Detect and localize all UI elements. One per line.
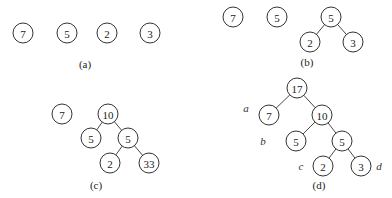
- huffman-tree-figure: 7523(a)75523(b)71055233(c)177105523abcd(…: [0, 0, 392, 198]
- node-label: 5: [339, 136, 345, 148]
- tree-node: 5: [57, 23, 77, 43]
- tree-node: 5: [267, 7, 287, 27]
- panel-caption: (a): [79, 58, 92, 71]
- panel-caption: (d): [313, 179, 326, 192]
- node-label: 2: [104, 28, 110, 40]
- tree-node: 2: [300, 32, 320, 52]
- node-label: 7: [230, 12, 236, 24]
- node-label: 3: [350, 37, 356, 49]
- tree-node: 17: [287, 78, 307, 98]
- tree-edge: [276, 95, 290, 108]
- panel-caption: (c): [90, 179, 103, 192]
- tree-edge: [338, 25, 347, 35]
- panel-d: 177105523abcd(d): [243, 78, 382, 192]
- node-annotation: d: [376, 160, 382, 172]
- tree-node: 2: [313, 156, 333, 176]
- node-label: 2: [107, 158, 113, 170]
- tree-edge: [303, 122, 315, 134]
- node-label: 2: [307, 37, 313, 49]
- tree-edge: [116, 146, 122, 155]
- tree-edge: [328, 123, 336, 133]
- panel-a: 7523(a): [13, 23, 160, 71]
- node-label: 3: [147, 28, 153, 40]
- node-label: 7: [20, 28, 26, 40]
- node-label: 5: [125, 133, 131, 145]
- tree-edge: [114, 122, 121, 131]
- node-label: 5: [328, 12, 334, 24]
- panel-c: 71055233(c): [52, 104, 159, 192]
- tree-node: 5: [286, 131, 306, 151]
- node-label: 10: [317, 110, 329, 122]
- node-label: 3: [358, 161, 364, 173]
- node-label: 5: [293, 136, 299, 148]
- node-label: 5: [64, 28, 70, 40]
- tree-edge: [97, 122, 102, 130]
- node-label: 5: [274, 12, 280, 24]
- tree-node: 5: [332, 131, 352, 151]
- tree-node: 3: [140, 23, 160, 43]
- tree-edge: [329, 149, 336, 158]
- node-label: 7: [266, 110, 272, 122]
- tree-node: 10: [98, 104, 118, 124]
- node-label: 5: [88, 133, 94, 145]
- panel-b: 75523(b): [223, 7, 363, 69]
- tree-edge: [134, 146, 142, 156]
- node-annotation: b: [260, 135, 266, 147]
- tree-node: 2: [97, 23, 117, 43]
- node-label: 7: [59, 109, 65, 121]
- node-label: 2: [320, 161, 326, 173]
- panel-caption: (b): [301, 56, 314, 69]
- tree-node: 3: [351, 156, 371, 176]
- node-label: 10: [103, 109, 115, 121]
- tree-node: 3: [343, 32, 363, 52]
- tree-node: 5: [321, 7, 341, 27]
- node-annotation: a: [243, 102, 249, 114]
- tree-edge: [304, 95, 315, 107]
- tree-edge: [316, 25, 324, 35]
- tree-node: 7: [13, 23, 33, 43]
- tree-node: 7: [52, 104, 72, 124]
- tree-node: 10: [312, 105, 332, 125]
- node-label: 33: [144, 158, 156, 170]
- tree-edge: [348, 149, 355, 158]
- node-annotation: c: [299, 160, 304, 172]
- tree-node: 2: [100, 153, 120, 173]
- node-label: 17: [292, 83, 304, 95]
- tree-node: 33: [139, 153, 159, 173]
- tree-node: 7: [259, 105, 279, 125]
- tree-node: 5: [118, 128, 138, 148]
- tree-node: 7: [223, 7, 243, 27]
- tree-node: 5: [81, 128, 101, 148]
